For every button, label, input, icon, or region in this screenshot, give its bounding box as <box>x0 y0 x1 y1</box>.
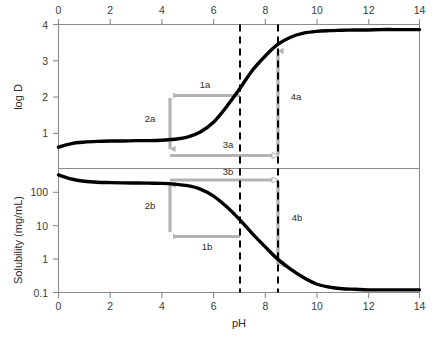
logd-tick-label-1: 1 <box>42 127 48 139</box>
sol-tick-label-0.1: 0.1 <box>33 287 48 299</box>
top-axis-ticks: 0 2 4 6 8 10 12 14 <box>56 4 426 25</box>
annotation-label-1a: 1a <box>200 79 211 90</box>
top-tick-label-0: 0 <box>56 4 62 16</box>
annotation-label-4b: 4b <box>292 212 303 223</box>
sol-tick-label-10: 10 <box>36 220 48 232</box>
bottom-tick-label-2: 2 <box>107 300 113 312</box>
top-tick-label-10: 10 <box>311 4 323 16</box>
log-d-axis-ticks: 4 3 2 1 log D <box>12 19 59 140</box>
bottom-axis-ticks: 0 2 4 6 8 10 12 14 pH <box>56 293 426 330</box>
chart-canvas: 0 2 4 6 8 10 12 14 0 2 4 6 8 10 12 14 <box>0 0 439 340</box>
annotation-label-3b: 3b <box>223 166 234 177</box>
bottom-tick-label-4: 4 <box>159 300 165 312</box>
annotation-label-3a: 3a <box>223 139 234 150</box>
annotation-label-1b: 1b <box>202 241 213 252</box>
top-tick-label-4: 4 <box>159 4 165 16</box>
bottom-tick-label-12: 12 <box>363 300 375 312</box>
log-d-axis-title: log D <box>12 84 24 110</box>
top-tick-label-6: 6 <box>211 4 217 16</box>
x-axis-title: pH <box>232 317 246 329</box>
sol-tick-label-100: 100 <box>30 186 48 198</box>
top-tick-label-12: 12 <box>363 4 375 16</box>
solubility-axis-ticks: 100 10 1 0.1 Solubility (mg/mL) <box>12 186 59 298</box>
sol-tick-label-1: 1 <box>42 253 48 265</box>
annotation-label-2a: 2a <box>145 113 156 124</box>
top-tick-label-2: 2 <box>107 4 113 16</box>
solubility-axis-title: Solubility (mg/mL) <box>12 196 24 284</box>
logd-tick-label-2: 2 <box>42 91 48 103</box>
bottom-tick-label-0: 0 <box>56 300 62 312</box>
bottom-tick-label-14: 14 <box>414 300 426 312</box>
bottom-tick-label-6: 6 <box>211 300 217 312</box>
ph-profile-figure: 0 2 4 6 8 10 12 14 0 2 4 6 8 10 12 14 <box>0 0 439 340</box>
annotation-label-4a: 4a <box>291 91 302 102</box>
top-tick-label-8: 8 <box>262 4 268 16</box>
bottom-tick-label-8: 8 <box>262 300 268 312</box>
top-tick-label-14: 14 <box>414 4 426 16</box>
annotation-label-2b: 2b <box>145 200 156 211</box>
logd-tick-label-3: 3 <box>42 55 48 67</box>
bottom-tick-label-10: 10 <box>311 300 323 312</box>
logd-tick-label-4: 4 <box>42 19 48 31</box>
